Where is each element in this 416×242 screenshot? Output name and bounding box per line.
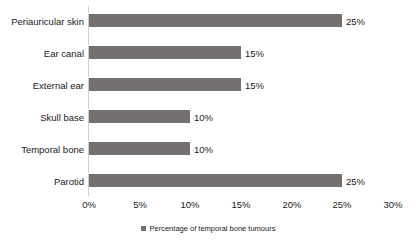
category-label: Periauricular skin	[0, 16, 84, 27]
x-tick-label: 5%	[133, 199, 147, 211]
bar-track: 10%	[89, 142, 190, 155]
bar-parotid	[89, 174, 342, 187]
x-tick-label: 20%	[282, 199, 301, 211]
category-label: External ear	[0, 80, 84, 91]
bar-data-label: 10%	[190, 143, 213, 154]
bar-track: 10%	[89, 110, 190, 123]
legend-label: Percentage of temporal bone tumours	[150, 224, 276, 233]
legend-swatch-icon	[141, 226, 146, 231]
bar-row: Periauricular skin 25%	[0, 5, 416, 37]
bar-row: Temporal bone 10%	[0, 133, 416, 165]
bar-row: Ear canal 15%	[0, 37, 416, 69]
bar-data-label: 15%	[241, 79, 264, 90]
bar-chart: Periauricular skin 25% Ear canal 15% Ext…	[0, 0, 416, 242]
bar-data-label: 10%	[190, 111, 213, 122]
bar-ear-canal	[89, 46, 241, 59]
category-label: Skull base	[0, 112, 84, 123]
x-tick-label: 10%	[180, 199, 199, 211]
bar-data-label: 15%	[241, 47, 264, 58]
bar-track: 25%	[89, 14, 342, 27]
category-label: Parotid	[0, 176, 84, 187]
bar-row: Parotid 25%	[0, 165, 416, 197]
bar-track: 15%	[89, 78, 241, 91]
x-tick-label: 0%	[82, 199, 96, 211]
category-label: Temporal bone	[0, 144, 84, 155]
bar-track: 25%	[89, 174, 342, 187]
bar-external-ear	[89, 78, 241, 91]
bar-track: 15%	[89, 46, 241, 59]
bar-temporal-bone	[89, 142, 190, 155]
x-tick-label: 25%	[332, 199, 351, 211]
bar-data-label: 25%	[342, 15, 365, 26]
x-axis: 0% 5% 10% 15% 20% 25% 30%	[0, 199, 416, 213]
bar-skull-base	[89, 110, 190, 123]
plot-area: Periauricular skin 25% Ear canal 15% Ext…	[0, 0, 416, 242]
chart-legend: Percentage of temporal bone tumours	[0, 224, 416, 233]
bar-data-label: 25%	[342, 175, 365, 186]
bar-row: Skull base 10%	[0, 101, 416, 133]
bar-row: External ear 15%	[0, 69, 416, 101]
category-label: Ear canal	[0, 48, 84, 59]
x-tick-label: 15%	[231, 199, 250, 211]
x-tick-label: 30%	[383, 199, 402, 211]
bar-periauricular-skin	[89, 14, 342, 27]
